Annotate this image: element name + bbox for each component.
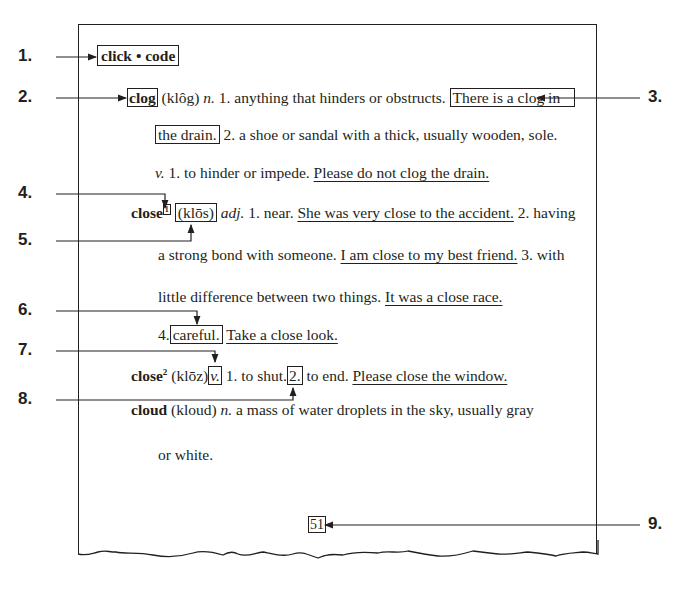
entry-word-close: close: [131, 204, 163, 221]
example-sentence: Please close the window.: [352, 367, 507, 384]
entry-word-cloud: cloud: [131, 401, 167, 418]
definition: 1. to shut.: [226, 367, 287, 384]
guide-word-first: click: [101, 47, 132, 64]
pronunciation: (kloud): [171, 401, 217, 418]
entry-word-close: close: [131, 367, 163, 384]
callout-7: 7.: [18, 340, 32, 360]
part-of-speech: n.: [221, 401, 233, 418]
callout-8: 8.: [18, 389, 32, 409]
definition: 2. a shoe or sandal with a thick, usuall…: [223, 126, 557, 143]
entry-clog-line3: v. 1. to hinder or impede. Please do not…: [155, 163, 489, 183]
example-sentence: She was very close to the accident.: [297, 204, 514, 221]
definition: a strong bond with someone.: [158, 246, 337, 263]
definition-boxed: careful.: [170, 325, 223, 344]
definition-number-boxed: 2.: [287, 366, 303, 385]
entry-close1-line4: 4.careful. Take a close look.: [158, 325, 338, 345]
entry-close1-line3: little difference between two things. It…: [158, 287, 502, 307]
entry-cloud-line1: cloud (kloud) n. a mass of water droplet…: [131, 400, 534, 420]
part-of-speech: n.: [203, 89, 215, 106]
callout-6: 6.: [18, 300, 32, 320]
pronunciation: (klōs): [175, 203, 217, 222]
guide-words-box: click • code: [97, 45, 179, 66]
example-sentence-continued: the drain.: [155, 125, 220, 144]
definition: to end.: [306, 367, 348, 384]
entry-close1-line1: close1 (klōs) adj. 1. near. She was very…: [131, 203, 575, 226]
example-sentence: I am close to my best friend.: [341, 246, 518, 263]
callout-2: 2.: [18, 87, 32, 107]
example-sentence: There is a clog in: [450, 88, 576, 107]
definition-number: 4.: [158, 326, 170, 343]
example-sentence: It was a close race.: [385, 288, 502, 305]
entry-clog-line1: clog (klôg) n. 1. anything that hinders …: [127, 88, 575, 108]
callout-5: 5.: [18, 230, 32, 250]
definition: or white.: [158, 446, 213, 463]
definition: 2. having: [518, 204, 576, 221]
example-sentence: Please do not clog the drain.: [314, 164, 490, 181]
guide-words: click • code: [97, 46, 179, 66]
homograph-number: 1: [163, 204, 171, 215]
part-of-speech-boxed: v.: [208, 366, 222, 385]
definition: 1. to hinder or impede.: [168, 164, 309, 181]
guide-word-separator: •: [136, 47, 141, 64]
definition: 1. anything that hinders or obstructs.: [219, 89, 446, 106]
pronunciation: (klôg): [162, 89, 200, 106]
entry-cloud-line2: or white.: [158, 445, 213, 465]
definition: a mass of water droplets in the sky, usu…: [236, 401, 534, 418]
callout-9: 9.: [648, 514, 662, 534]
page-number-box: 51: [308, 516, 326, 533]
guide-word-last: code: [145, 47, 175, 64]
callout-3: 3.: [648, 87, 662, 107]
entry-clog-line2: the drain. 2. a shoe or sandal with a th…: [155, 125, 557, 145]
homograph-number: 2: [163, 367, 168, 377]
part-of-speech: v.: [155, 164, 165, 181]
definition: little difference between two things.: [158, 288, 381, 305]
pronunciation: (klōz): [171, 367, 208, 384]
entry-word-clog: clog: [127, 88, 158, 107]
part-of-speech: adj.: [221, 204, 245, 221]
example-sentence: Take a close look.: [226, 326, 338, 343]
callout-1: 1.: [18, 46, 32, 66]
entry-close2-line1: close2 (klōz)v. 1. to shut.2. to end. Pl…: [131, 362, 507, 386]
entry-close1-line2: a strong bond with someone. I am close t…: [158, 245, 564, 265]
definition: 3. with: [521, 246, 564, 263]
page-number: 51: [308, 515, 326, 535]
definition: 1. near.: [248, 204, 293, 221]
callout-4: 4.: [18, 183, 32, 203]
